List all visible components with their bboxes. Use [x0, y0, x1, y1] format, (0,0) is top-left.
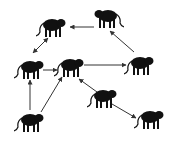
edge-F-to-D [41, 77, 62, 112]
monkey-icon-G [87, 90, 117, 108]
edge-A-to-C [33, 38, 48, 53]
monkey-icon-D [54, 59, 84, 77]
edge-layer [30, 27, 136, 118]
edge-G-to-H [112, 104, 136, 118]
monkey-icon-F [14, 114, 44, 132]
diagram-canvas [0, 0, 177, 149]
edge-E-to-B [110, 31, 134, 52]
monkey-icon-B [95, 10, 125, 28]
monkey-network-diagram [0, 0, 177, 149]
monkey-icon-A [36, 19, 66, 37]
monkey-icon-H [134, 111, 164, 129]
monkey-icon-E [124, 57, 154, 75]
edge-G-to-D [79, 79, 97, 92]
monkey-icon-C [14, 61, 44, 79]
node-layer [14, 10, 164, 132]
